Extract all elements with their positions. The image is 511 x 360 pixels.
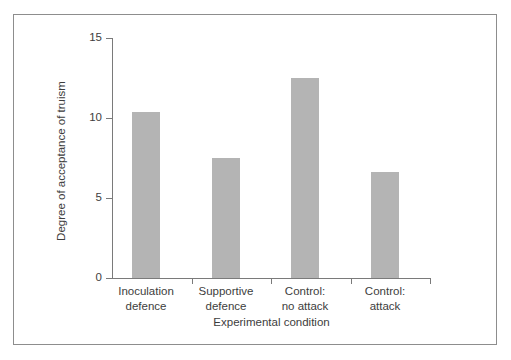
y-tick-label-0: 0 <box>62 272 102 283</box>
x-category-label-4: Control: attack <box>325 284 445 314</box>
figure: 15 10 5 0 Inoculation defence Supportive… <box>0 0 511 360</box>
x-axis-title: Experimental condition <box>112 316 431 328</box>
x-category-label-4-line1: Control: <box>365 285 405 297</box>
y-tick-15 <box>106 38 112 39</box>
bar-control-no-attack <box>291 78 319 278</box>
plot-area: 15 10 5 0 Inoculation defence Supportive… <box>0 0 511 360</box>
x-category-label-3-line1: Control: <box>285 285 325 297</box>
y-tick-label-10: 10 <box>62 112 102 123</box>
y-axis-line <box>112 38 113 279</box>
y-tick-5 <box>106 198 112 199</box>
y-axis-title: Degree of acceptance of truism <box>55 51 67 271</box>
y-tick-10 <box>106 118 112 119</box>
y-tick-label-5: 5 <box>62 192 102 203</box>
bar-control-attack <box>371 172 399 278</box>
bar-inoculation-defence <box>132 112 160 278</box>
y-tick-label-15: 15 <box>62 32 102 43</box>
x-category-label-4-line2: attack <box>325 299 445 314</box>
bar-supportive-defence <box>212 158 240 278</box>
y-tick-0 <box>106 278 112 279</box>
